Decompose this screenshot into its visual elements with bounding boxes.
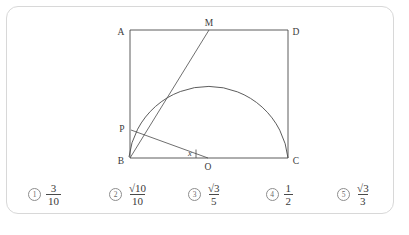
- choice-numerator-3: √3: [206, 182, 222, 194]
- choice-denominator-2: 10: [130, 194, 145, 207]
- choice-marker-5: 5: [337, 188, 350, 201]
- vertex-label-a: A: [118, 27, 125, 37]
- choice-denominator-1: 10: [46, 194, 61, 207]
- choice-numerator-4: 1: [284, 182, 294, 194]
- choice-value-4: 1 2: [284, 182, 294, 208]
- choice-4[interactable]: 4 1 2: [266, 182, 294, 208]
- answer-choices: 1 3 10 2 √10 10 3 √3 5 4 1 2 5 √3 3: [14, 182, 394, 224]
- choice-value-2: √10 10: [127, 182, 148, 208]
- geometry-figure: A D M P B O C x: [0, 0, 409, 180]
- vertex-label-p: P: [119, 124, 124, 134]
- semicircle-arc: [129, 86, 288, 158]
- choice-marker-3: 3: [188, 188, 201, 201]
- vertex-label-m: M: [205, 18, 214, 28]
- choice-3[interactable]: 3 √3 5: [188, 182, 222, 208]
- choice-denominator-4: 2: [284, 194, 294, 207]
- choice-marker-1: 1: [28, 188, 41, 201]
- choice-value-3: √3 5: [206, 182, 222, 208]
- vertex-label-b: B: [118, 156, 124, 166]
- choice-numerator-2: √10: [127, 182, 148, 194]
- choice-numerator-5: √3: [355, 182, 371, 194]
- choice-denominator-3: 5: [209, 194, 219, 207]
- angle-label-x: x: [187, 148, 192, 158]
- choice-denominator-5: 3: [358, 194, 368, 207]
- choice-numerator-1: 3: [49, 182, 59, 194]
- choice-value-1: 3 10: [46, 182, 61, 208]
- choice-2[interactable]: 2 √10 10: [109, 182, 148, 208]
- segment-bm: [130, 30, 209, 158]
- vertex-label-o: O: [205, 162, 212, 172]
- choice-value-5: √3 3: [355, 182, 371, 208]
- vertex-label-c: C: [293, 156, 299, 166]
- choice-1[interactable]: 1 3 10: [28, 182, 61, 208]
- vertex-label-d: D: [293, 27, 300, 37]
- rectangle-abcd: [130, 30, 288, 158]
- segment-po: [131, 130, 208, 158]
- choice-5[interactable]: 5 √3 3: [337, 182, 371, 208]
- choice-marker-2: 2: [109, 188, 122, 201]
- choice-marker-4: 4: [266, 188, 279, 201]
